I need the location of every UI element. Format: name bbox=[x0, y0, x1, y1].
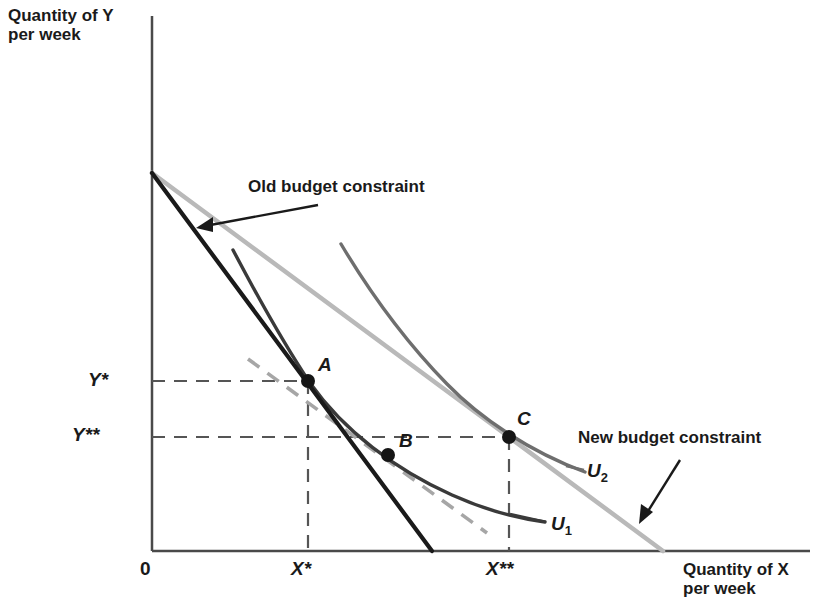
point-marker-a bbox=[301, 374, 315, 388]
curve-label-u2: U2 bbox=[587, 460, 608, 485]
old-budget-constraint-label: Old budget constraint bbox=[248, 177, 425, 196]
figure-canvas bbox=[0, 0, 823, 611]
y-tick-label-y-star: Y* bbox=[88, 369, 108, 390]
curve-label-u1-sub: 1 bbox=[565, 523, 572, 538]
indifference-curve-figure: Quantity of Y per week Quantity of X per… bbox=[0, 0, 823, 611]
x-tick-label-x-double-star: X** bbox=[486, 558, 513, 579]
old-budget-constraint-line bbox=[152, 173, 432, 551]
point-marker-c bbox=[502, 430, 516, 444]
new-budget-constraint-label: New budget constraint bbox=[578, 428, 761, 447]
curve-label-u1-base: U bbox=[551, 513, 565, 534]
origin-label: 0 bbox=[140, 558, 151, 579]
new-budget-arrow bbox=[639, 460, 680, 524]
curve-label-u1: U1 bbox=[551, 513, 572, 538]
y-axis-title: Quantity of Y per week bbox=[8, 6, 113, 44]
point-label-b: B bbox=[399, 430, 413, 451]
x-axis-title: Quantity of X per week bbox=[683, 560, 789, 598]
x-tick-label-x-star: X* bbox=[291, 558, 311, 579]
compensated-budget-line bbox=[248, 359, 487, 533]
new-budget-constraint-line bbox=[152, 173, 663, 551]
point-label-a: A bbox=[318, 354, 332, 375]
point-label-c: C bbox=[517, 408, 531, 429]
curve-label-u2-base: U bbox=[587, 460, 601, 481]
y-tick-label-y-double-star: Y** bbox=[72, 424, 99, 445]
point-marker-b bbox=[381, 448, 395, 462]
curve-label-u2-sub: 2 bbox=[601, 470, 608, 485]
u1-indifference-curve bbox=[233, 250, 545, 522]
